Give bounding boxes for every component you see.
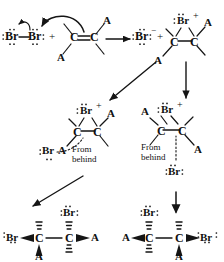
ir-substituent-bottom: A [194, 144, 202, 155]
attack-arrow-left [33, 176, 83, 206]
ir-substituent-top: A [141, 106, 149, 117]
pr-carbon-2: C [175, 232, 184, 244]
alkene-substituent-top: A [103, 15, 111, 26]
pr-wedge-a-c1 [131, 234, 145, 242]
pr-hash-c1-up [146, 222, 152, 229]
pl-substituent-right: A [91, 232, 99, 243]
pr-hash-c1-down [146, 245, 152, 252]
pr-substituent-bottom: A [175, 251, 183, 262]
ir-attacking-bromide: Br [168, 166, 180, 177]
bromide-ion-charge: − [151, 26, 156, 35]
ir-bromine-charge: + [177, 100, 183, 110]
pl-wedge-br-c1 [20, 234, 34, 242]
il-bromine-label: Br [80, 105, 92, 116]
il-note-line-2: behind [72, 155, 97, 164]
pr-bromine-right: Br [200, 232, 212, 243]
pl-carbon-2: C [65, 232, 74, 244]
alkene-carbon-2: C [90, 31, 99, 43]
ir-bond-br-c1 [161, 116, 167, 124]
pl-hash-c2-down [66, 245, 72, 252]
ir-note-line-2: behind [141, 153, 166, 162]
bromonium-charge-top: + [193, 11, 199, 21]
il-attacking-bromide: Br [42, 145, 54, 156]
bromonium-carbon-2-top: C [190, 36, 199, 48]
pr-bromine-top: Br [143, 207, 155, 218]
il-bromine-charge: + [96, 101, 102, 111]
pl-bromine-left: Br [6, 232, 18, 243]
ir-bond-br-c2 [171, 116, 178, 124]
branch-arrow-left [110, 62, 156, 100]
ir-bromine-label: Br [161, 104, 173, 115]
pr-wedge-c2-br [186, 234, 200, 242]
alkene-substituent-bottom: A [57, 52, 65, 63]
ir-carbon-2: C [178, 125, 187, 137]
il-substituent-bottom: A [58, 145, 66, 156]
pl-wedge-c2-a [76, 234, 90, 242]
pr-carbon-1: C [145, 232, 154, 244]
pr-substituent-left: A [122, 232, 130, 243]
pl-hash-c1-up [36, 222, 42, 229]
pl-hash-c2-up [66, 222, 72, 229]
bond-c2-sub-downright [96, 44, 104, 54]
pl-bromine-top: Br [63, 207, 75, 218]
reaction-mechanism-diagram: Br Br + C C A A Br − + Br + C C A A Br +… [0, 0, 224, 262]
plus-sign-2: + [157, 31, 163, 42]
il-note-line-1: From [72, 145, 92, 154]
alkene-carbon-1: C [70, 31, 79, 43]
plus-sign-1: + [49, 31, 55, 42]
bromonium-substituent-top: A [204, 17, 212, 28]
ir-carbon-1: C [157, 125, 166, 137]
bromine-right-label: Br [28, 30, 41, 42]
il-substituent-top: A [107, 108, 115, 119]
bromonium-substituent-bottom: A [154, 55, 162, 66]
il-carbon-1: C [73, 126, 82, 138]
bromide-ion-label: Br [135, 30, 148, 42]
pl-substituent-bottom: A [35, 251, 43, 262]
ir-note-line-1: From [141, 143, 161, 152]
bromonium-carbon-1-top: C [170, 36, 179, 48]
bromonium-bromine-top: Br [177, 15, 189, 26]
bromine-left-label: Br [5, 30, 18, 42]
il-carbon-2: C [93, 126, 102, 138]
pr-hash-c2-up [176, 222, 182, 229]
pl-carbon-1: C [35, 232, 44, 244]
